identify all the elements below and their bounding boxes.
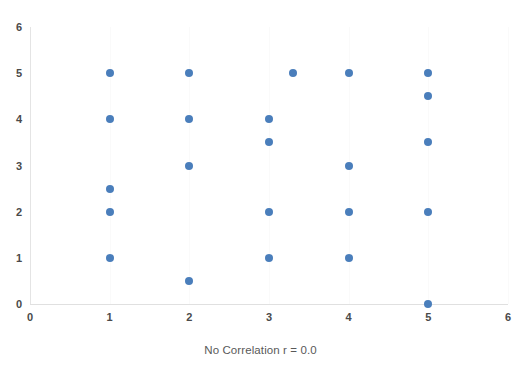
plot-area — [30, 27, 508, 304]
data-point — [345, 69, 353, 77]
data-point — [345, 162, 353, 170]
data-point — [345, 208, 353, 216]
data-point — [424, 300, 432, 308]
data-point — [185, 277, 193, 285]
data-point — [106, 115, 114, 123]
data-point — [265, 115, 273, 123]
data-point — [106, 208, 114, 216]
data-point — [345, 254, 353, 262]
y-tick-label: 5 — [2, 67, 22, 79]
y-axis-line — [30, 27, 31, 304]
x-tick-label: 3 — [259, 311, 279, 323]
y-tick-label: 0 — [2, 298, 22, 310]
x-axis-line — [30, 304, 508, 305]
x-tick-label: 6 — [498, 311, 518, 323]
x-tick-label: 5 — [418, 311, 438, 323]
x-axis-title: No Correlation r = 0.0 — [0, 344, 521, 356]
data-point — [265, 138, 273, 146]
x-tick-label: 2 — [179, 311, 199, 323]
gridline-vertical — [508, 27, 509, 304]
x-tick-label: 4 — [339, 311, 359, 323]
data-point — [424, 92, 432, 100]
x-tick-label: 1 — [100, 311, 120, 323]
scatter-chart: 0123456 0123456 No Correlation r = 0.0 — [0, 0, 521, 367]
y-tick-label: 6 — [2, 21, 22, 33]
data-point — [289, 69, 297, 77]
y-tick-label: 1 — [2, 252, 22, 264]
y-tick-label: 4 — [2, 113, 22, 125]
data-point — [424, 69, 432, 77]
data-point — [185, 115, 193, 123]
data-point — [106, 254, 114, 262]
data-point — [106, 69, 114, 77]
data-point — [265, 254, 273, 262]
y-tick-label: 2 — [2, 206, 22, 218]
y-tick-label: 3 — [2, 160, 22, 172]
data-point — [424, 138, 432, 146]
gridline-vertical — [269, 27, 270, 304]
x-tick-label: 0 — [20, 311, 40, 323]
data-point — [265, 208, 273, 216]
data-point — [106, 185, 114, 193]
data-point — [185, 162, 193, 170]
data-point — [185, 69, 193, 77]
data-point — [424, 208, 432, 216]
